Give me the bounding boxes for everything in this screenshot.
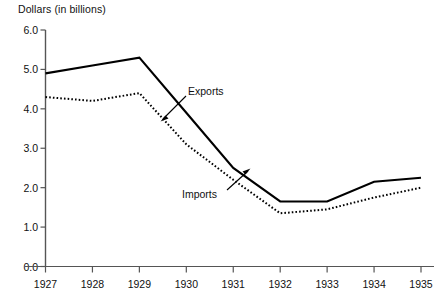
series-line-imports [46, 93, 422, 213]
chart-container: Dollars (in billions) 0.01.02.03.04.05.0… [0, 0, 434, 307]
x-axis-tick-label: 1928 [81, 278, 104, 290]
chart-plot-area [0, 0, 434, 307]
series-label-exports: Exports [188, 85, 224, 97]
y-axis-ticks [41, 30, 46, 267]
x-axis-ticks [46, 267, 422, 273]
x-axis-tick-label: 1931 [222, 278, 245, 290]
x-axis-tick-label: 1935 [409, 278, 432, 290]
x-axis-tick-label: 1927 [34, 278, 57, 290]
x-axis-tick-label: 1932 [269, 278, 292, 290]
x-axis-tick-label: 1929 [128, 278, 151, 290]
x-axis-tick-label: 1933 [315, 278, 338, 290]
x-axis-tick-label: 1930 [175, 278, 198, 290]
x-axis-tick-label: 1934 [362, 278, 385, 290]
series-label-imports: Imports [182, 188, 217, 200]
imports-leader-arrowhead [243, 169, 251, 175]
